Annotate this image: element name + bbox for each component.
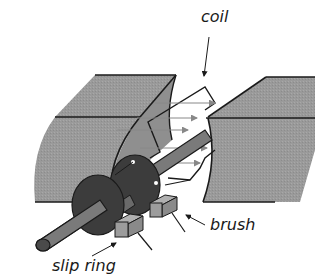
brush-back — [150, 195, 185, 232]
brush-pointer-arrow — [186, 215, 205, 225]
right-magnet-pole — [203, 77, 315, 202]
brush-label: brush — [210, 217, 255, 233]
slip-ring-pointer-arrow — [92, 243, 116, 256]
brush-front — [115, 214, 152, 250]
coil-label: coil — [201, 9, 228, 25]
slip-ring-label: slip ring — [52, 258, 116, 274]
coil-pointer-arrow — [204, 37, 209, 76]
